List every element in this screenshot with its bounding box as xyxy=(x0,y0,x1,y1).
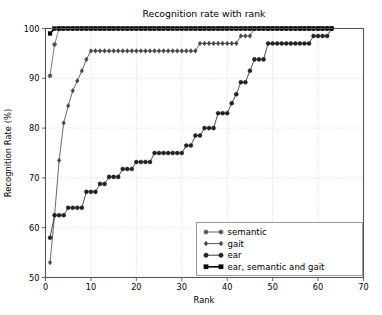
data-point xyxy=(171,151,175,155)
data-point xyxy=(280,41,284,45)
data-point xyxy=(184,143,188,147)
data-point xyxy=(62,213,66,217)
data-point xyxy=(234,92,238,96)
legend-marker xyxy=(219,253,223,257)
x-tick-label: 70 xyxy=(358,282,368,292)
data-point xyxy=(202,126,206,130)
data-point xyxy=(289,41,293,45)
data-point xyxy=(311,34,315,38)
data-point xyxy=(248,69,252,73)
chart-figure: Recognition rate with rank 5060708090100… xyxy=(0,0,382,315)
data-point xyxy=(207,126,211,130)
data-point xyxy=(321,34,325,38)
legend-marker xyxy=(219,265,223,269)
y-tick-label: 70 xyxy=(29,173,39,183)
recognition-rate-chart: Recognition rate with rank 5060708090100… xyxy=(0,0,382,315)
data-point xyxy=(143,160,147,164)
legend-marker xyxy=(204,265,208,269)
data-point xyxy=(166,151,170,155)
data-point xyxy=(157,151,161,155)
data-point xyxy=(112,175,116,179)
y-tick-label: 60 xyxy=(29,223,39,233)
data-point xyxy=(48,74,52,78)
data-point xyxy=(162,151,166,155)
data-point xyxy=(134,160,138,164)
x-tick-label: 20 xyxy=(131,282,141,292)
chart-legend[interactable]: semanticgaitearear, semantic and gait xyxy=(197,223,363,276)
y-tick-label: 90 xyxy=(29,73,39,83)
y-tick-label: 100 xyxy=(24,24,40,34)
data-point xyxy=(75,206,79,210)
x-tick-label: 50 xyxy=(267,282,277,292)
y-tick-label: 50 xyxy=(29,273,39,283)
legend-label: ear xyxy=(228,250,243,260)
data-point xyxy=(175,151,179,155)
data-point xyxy=(103,182,107,186)
data-point xyxy=(53,213,57,217)
data-point xyxy=(262,57,266,61)
data-point xyxy=(66,206,70,210)
data-point xyxy=(271,41,275,45)
legend-marker xyxy=(204,230,208,234)
x-tick-label: 0 xyxy=(43,282,48,292)
x-tick-label: 40 xyxy=(222,282,232,292)
data-point xyxy=(125,167,129,171)
data-point xyxy=(48,32,52,36)
data-point xyxy=(316,34,320,38)
data-point xyxy=(257,57,261,61)
data-point xyxy=(121,167,125,171)
data-point xyxy=(284,41,288,45)
data-point xyxy=(252,57,256,61)
data-point xyxy=(107,175,111,179)
data-point xyxy=(57,213,61,217)
data-point xyxy=(148,160,152,164)
data-point xyxy=(225,111,229,115)
data-point xyxy=(89,190,93,194)
data-point xyxy=(193,134,197,138)
data-point xyxy=(48,236,52,240)
data-point xyxy=(275,41,279,45)
data-point xyxy=(216,111,220,115)
data-point xyxy=(239,80,243,84)
data-point xyxy=(212,126,216,130)
data-point xyxy=(293,41,297,45)
data-point xyxy=(139,160,143,164)
chart-title: Recognition rate with rank xyxy=(142,8,266,19)
data-point xyxy=(93,190,97,194)
data-point xyxy=(84,190,88,194)
legend-label: semantic xyxy=(228,227,268,237)
legend-label: gait xyxy=(228,239,245,249)
data-point xyxy=(325,34,329,38)
x-tick-label: 30 xyxy=(177,282,187,292)
data-point xyxy=(180,151,184,155)
x-tick-label: 10 xyxy=(86,282,96,292)
data-point xyxy=(307,41,311,45)
data-point xyxy=(71,206,75,210)
data-point xyxy=(221,111,225,115)
data-point xyxy=(130,167,134,171)
data-point xyxy=(152,151,156,155)
data-point xyxy=(189,143,193,147)
data-point xyxy=(198,134,202,138)
data-point xyxy=(116,175,120,179)
data-point xyxy=(98,182,102,186)
data-point xyxy=(230,101,234,105)
data-point xyxy=(53,42,57,46)
data-point xyxy=(302,41,306,45)
legend-marker xyxy=(204,253,208,257)
data-point xyxy=(80,206,84,210)
data-point xyxy=(243,80,247,84)
y-tick-label: 80 xyxy=(29,123,39,133)
data-point xyxy=(266,41,270,45)
x-axis-label: Rank xyxy=(194,295,215,305)
legend-label: ear, semantic and gait xyxy=(228,262,326,272)
y-axis-label: Recognition Rate (%) xyxy=(3,109,13,197)
x-tick-label: 60 xyxy=(313,282,323,292)
data-point xyxy=(298,41,302,45)
legend-marker xyxy=(219,230,223,234)
